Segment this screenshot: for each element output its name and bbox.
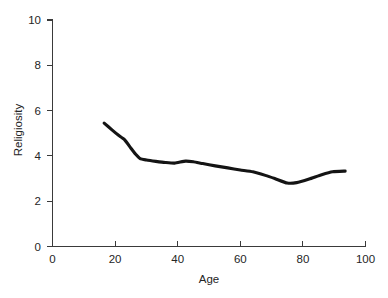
x-tick-label: 40 bbox=[171, 253, 184, 265]
y-tick-label: 0 bbox=[35, 241, 41, 253]
religiosity-by-age-line-chart: 0246810 Religiosity 020406080100 Age bbox=[0, 0, 388, 298]
y-tick-label: 4 bbox=[35, 150, 42, 162]
x-tick-label: 60 bbox=[234, 253, 247, 265]
y-tick-label: 10 bbox=[28, 14, 41, 26]
x-axis-title: Age bbox=[199, 273, 219, 285]
y-tick-label: 2 bbox=[35, 195, 41, 207]
x-tick-label: 100 bbox=[356, 253, 375, 265]
chart-figure: 0246810 Religiosity 020406080100 Age bbox=[0, 0, 388, 298]
y-tick-label: 8 bbox=[35, 59, 41, 71]
y-tick-label: 6 bbox=[35, 105, 41, 117]
y-axis-title: Religiosity bbox=[12, 104, 24, 157]
x-tick-label: 20 bbox=[109, 253, 122, 265]
x-tick-label: 80 bbox=[297, 253, 310, 265]
x-tick-label: 0 bbox=[49, 253, 55, 265]
chart-background bbox=[0, 0, 388, 298]
